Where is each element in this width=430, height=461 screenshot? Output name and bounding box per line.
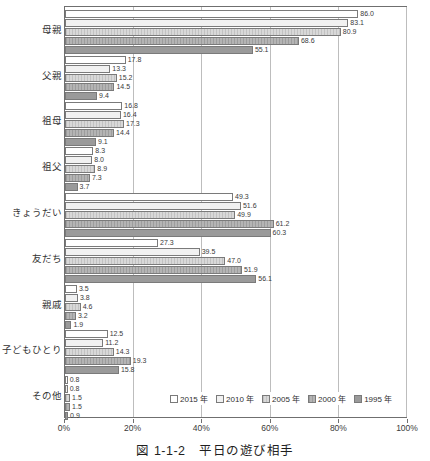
bar-きょうだい-2000年 [65, 220, 274, 228]
bar-value-label: 49.3 [233, 192, 249, 201]
bar-祖母-2015年 [65, 102, 122, 110]
bar-母親-2000年 [65, 37, 299, 45]
x-axis: 0%20%40%60%80%100% [64, 419, 407, 435]
bar-group: 86.083.180.968.655.1 [65, 10, 406, 55]
bar-友だち-2005年 [65, 257, 225, 265]
bar-row: 19.3 [65, 357, 406, 365]
bar-母親-1995年 [65, 46, 253, 54]
bar-row: 39.5 [65, 248, 406, 256]
bar-value-label: 11.2 [103, 338, 118, 347]
bar-value-label: 9.4 [97, 91, 109, 100]
legend-label: 1995 年 [364, 393, 392, 404]
category-label-母親: 母親 [2, 22, 62, 36]
x-tick-label: 0% [58, 423, 70, 433]
bar-祖父-2015年 [65, 147, 93, 155]
bar-value-label: 39.5 [200, 247, 216, 256]
bar-value-label: 8.3 [93, 146, 105, 155]
bar-row: 8.0 [65, 156, 406, 164]
legend-item-2010年[interactable]: 2010 年 [216, 393, 254, 404]
bar-value-label: 83.1 [348, 18, 364, 27]
bar-value-label: 68.6 [299, 36, 315, 45]
bar-row: 68.6 [65, 37, 406, 45]
x-tick-label: 100% [396, 423, 418, 433]
bar-row: 86.0 [65, 10, 406, 18]
bar-row: 3.2 [65, 312, 406, 320]
category-label-祖母: 祖母 [2, 113, 62, 127]
bar-row: 3.8 [65, 294, 406, 302]
bar-祖母-2005年 [65, 120, 124, 128]
bar-row: 9.1 [65, 138, 406, 146]
bar-母親-2015年 [65, 10, 358, 18]
bar-row: 80.9 [65, 28, 406, 36]
bar-value-label: 17.3 [124, 119, 140, 128]
bar-value-label: 19.3 [131, 356, 147, 365]
bar-父親-1995年 [65, 92, 97, 100]
gridline [406, 7, 407, 417]
bar-group: 12.511.214.319.315.8 [65, 330, 406, 375]
bar-row: 56.1 [65, 275, 406, 283]
x-tick-label: 40% [193, 423, 210, 433]
bar-親戚-2000年 [65, 312, 76, 320]
bar-row: 8.3 [65, 147, 406, 155]
bar-value-label: 61.2 [274, 219, 290, 228]
bar-子どもひとり-1995年 [65, 366, 119, 374]
legend-swatch-icon [354, 395, 362, 403]
category-axis: 母親父親祖母祖父きょうだい友だち親戚子どもひとりその他 [0, 6, 62, 418]
bar-value-label: 55.1 [253, 45, 269, 54]
bar-row: 0.8 [65, 376, 406, 384]
bar-value-label: 4.6 [81, 302, 93, 311]
bar-value-label: 8.9 [95, 164, 107, 173]
bar-きょうだい-2015年 [65, 193, 233, 201]
bar-父親-2015年 [65, 56, 126, 64]
bar-row: 27.3 [65, 239, 406, 247]
bar-value-label: 0.8 [68, 375, 80, 384]
bar-group: 17.813.315.214.59.4 [65, 56, 406, 101]
bar-value-label: 51.6 [241, 201, 257, 210]
bar-row: 3.5 [65, 285, 406, 293]
x-tick-label: 80% [330, 423, 347, 433]
bar-value-label: 47.0 [225, 256, 241, 265]
category-label-きょうだい: きょうだい [2, 205, 62, 219]
legend-swatch-icon [262, 395, 270, 403]
bar-value-label: 56.1 [256, 274, 272, 283]
bar-親戚-2010年 [65, 294, 78, 302]
bar-value-label: 1.5 [70, 393, 82, 402]
bar-value-label: 16.8 [122, 101, 138, 110]
category-label-親戚: 親戚 [2, 297, 62, 311]
bar-row: 1.9 [65, 321, 406, 329]
bar-value-label: 86.0 [358, 9, 374, 18]
bar-row: 14.4 [65, 129, 406, 137]
bar-value-label: 60.3 [271, 228, 287, 237]
bar-父親-2005年 [65, 74, 117, 82]
bar-友だち-2015年 [65, 239, 158, 247]
chart-legend: 2015 年2010 年2005 年2000 年1995 年 [168, 392, 394, 405]
bar-row: 15.8 [65, 366, 406, 374]
bar-row: 7.3 [65, 174, 406, 182]
bar-value-label: 3.8 [78, 293, 90, 302]
bar-value-label: 15.2 [117, 73, 133, 82]
figure-title: 図 1-1-2 平日の遊び相手 [0, 440, 430, 459]
bar-row: 14.5 [65, 83, 406, 91]
bar-子どもひとり-2015年 [65, 330, 108, 338]
bar-value-label: 3.7 [78, 182, 90, 191]
bar-row: 51.9 [65, 266, 406, 274]
bar-value-label: 14.3 [114, 347, 130, 356]
legend-item-2005年[interactable]: 2005 年 [262, 393, 300, 404]
bar-value-label: 49.9 [235, 210, 251, 219]
bar-row: 13.3 [65, 65, 406, 73]
bar-親戚-2005年 [65, 303, 81, 311]
bar-value-label: 3.2 [76, 311, 88, 320]
bar-row: 8.9 [65, 165, 406, 173]
bar-row: 15.2 [65, 74, 406, 82]
bar-row: 16.8 [65, 102, 406, 110]
bar-row: 61.2 [65, 220, 406, 228]
legend-item-1995年[interactable]: 1995 年 [354, 393, 392, 404]
legend-item-2000年[interactable]: 2000 年 [308, 393, 346, 404]
bar-祖母-2000年 [65, 129, 114, 137]
legend-item-2015年[interactable]: 2015 年 [170, 393, 208, 404]
legend-label: 2000 年 [318, 393, 346, 404]
bar-group: 16.816.417.314.49.1 [65, 102, 406, 147]
bar-友だち-1995年 [65, 275, 256, 283]
legend-label: 2015 年 [180, 393, 208, 404]
bar-子どもひとり-2010年 [65, 339, 103, 347]
